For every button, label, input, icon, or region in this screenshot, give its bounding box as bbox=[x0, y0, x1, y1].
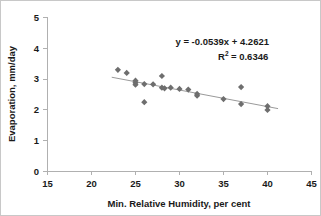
y-tick-label: 2 bbox=[34, 104, 39, 115]
y-tick-label: 1 bbox=[34, 135, 40, 146]
x-tick-label: 20 bbox=[86, 178, 97, 189]
data-point bbox=[238, 84, 244, 90]
y-tick-label: 4 bbox=[34, 43, 40, 54]
x-tick-label: 30 bbox=[174, 178, 185, 189]
r-squared-label: R 2 = 0.6346 bbox=[218, 50, 268, 62]
y-tick-label: 5 bbox=[34, 12, 40, 23]
x-tick-label: 15 bbox=[42, 178, 53, 189]
r-squared-value: = 0.6346 bbox=[231, 51, 268, 62]
y-axis-title: Evaporation, mm/day bbox=[6, 45, 17, 142]
x-tick-label: 45 bbox=[306, 178, 317, 189]
r-squared-superscript: 2 bbox=[225, 50, 229, 57]
data-point bbox=[124, 70, 130, 76]
y-tick-label: 0 bbox=[34, 166, 39, 177]
r-squared-prefix: R bbox=[218, 51, 225, 62]
chart-canvas: 5 4 3 2 1 0 15 20 25 30 35 40 45 Min. Re… bbox=[1, 1, 321, 216]
data-point bbox=[141, 81, 147, 87]
data-point bbox=[141, 99, 147, 105]
data-point bbox=[220, 96, 226, 102]
data-point bbox=[176, 86, 182, 92]
x-axis-title: Min. Relative Humidity, per cent bbox=[108, 198, 252, 209]
data-point bbox=[168, 85, 174, 91]
scatter-chart-figure: 5 4 3 2 1 0 15 20 25 30 35 40 45 Min. Re… bbox=[0, 0, 321, 216]
y-tick-label: 3 bbox=[34, 73, 39, 84]
x-tick-label: 25 bbox=[130, 178, 141, 189]
data-point bbox=[264, 107, 270, 113]
trendline-equation-label: y = -0.0539x + 4.2621 bbox=[176, 36, 270, 47]
x-tick-label: 40 bbox=[262, 178, 273, 189]
x-tick-label: 35 bbox=[218, 178, 229, 189]
data-point bbox=[159, 73, 165, 79]
data-point bbox=[150, 81, 156, 87]
data-point bbox=[115, 67, 121, 73]
y-axis-ticks bbox=[43, 18, 47, 172]
scatter-series bbox=[115, 67, 271, 113]
